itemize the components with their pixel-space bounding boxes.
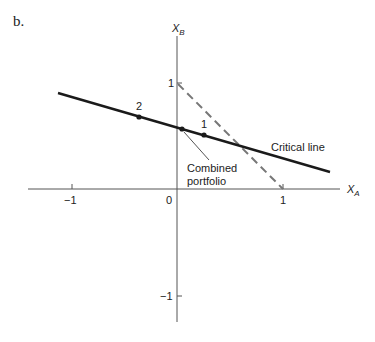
critical-line-label: Critical line xyxy=(271,141,325,153)
y-tick-label-neg1: −1 xyxy=(160,290,173,302)
point-2 xyxy=(136,114,141,119)
point-1-label: 1 xyxy=(201,118,207,130)
combined-portfolio-point xyxy=(179,126,184,131)
x-tick-label-1: 1 xyxy=(280,194,286,206)
y-axis-name: XB xyxy=(171,22,185,37)
point-1 xyxy=(201,132,206,137)
diagram: −1 0 1 1 −1 XB XA 2 1 Combined portfolio… xyxy=(0,0,375,342)
combined-portfolio-label-2: portfolio xyxy=(187,175,226,187)
critical-line xyxy=(58,93,330,172)
combined-portfolio-label-1: Combined xyxy=(187,162,237,174)
point-2-label: 2 xyxy=(136,100,142,112)
x-tick-label-0: 0 xyxy=(166,194,172,206)
y-tick-label-1: 1 xyxy=(168,77,174,89)
x-axis-name: XA xyxy=(346,183,360,198)
x-tick-label-neg1: −1 xyxy=(64,194,77,206)
